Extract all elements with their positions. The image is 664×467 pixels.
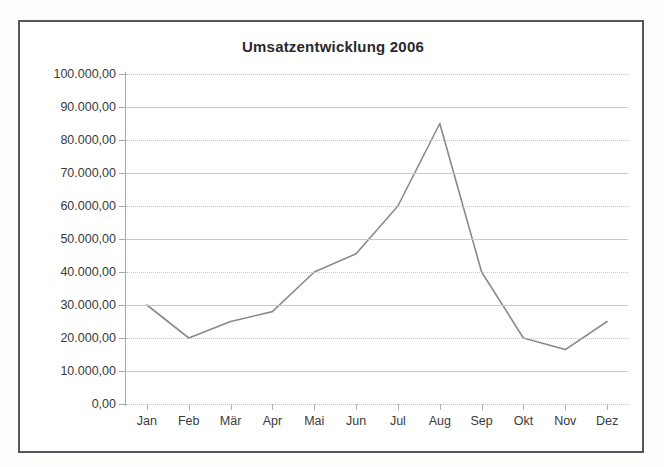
y-axis-label: 70.000,00 <box>24 166 116 180</box>
y-axis-tick <box>119 206 126 207</box>
plot-area <box>126 74 628 404</box>
y-axis-label: 10.000,00 <box>24 364 116 378</box>
page-caption <box>0 459 664 467</box>
x-axis-tick <box>482 404 483 410</box>
y-axis-label: 90.000,00 <box>24 100 116 114</box>
y-axis-labels: 0,0010.000,0020.000,0030.000,0040.000,00… <box>20 22 116 455</box>
x-axis-tick <box>272 404 273 410</box>
y-axis-tick <box>119 140 126 141</box>
y-axis-tick <box>119 272 126 273</box>
x-axis-tick <box>147 404 148 410</box>
y-axis-label: 40.000,00 <box>24 265 116 279</box>
x-axis-tick <box>607 404 608 410</box>
x-axis-tick <box>565 404 566 410</box>
chart-frame: Umsatzentwicklung 2006 0,0010.000,0020.0… <box>18 20 644 453</box>
x-axis-tick <box>231 404 232 410</box>
y-axis-label: 60.000,00 <box>24 199 116 213</box>
y-axis-label: 50.000,00 <box>24 232 116 246</box>
y-axis-label: 20.000,00 <box>24 331 116 345</box>
y-axis-tick <box>119 338 126 339</box>
y-axis-tick <box>119 107 126 108</box>
x-axis-tick <box>356 404 357 410</box>
scanned-page: Umsatzentwicklung 2006 0,0010.000,0020.0… <box>0 0 664 467</box>
y-axis-tick <box>119 74 126 75</box>
gridline <box>126 206 628 207</box>
y-axis-tick <box>119 404 126 405</box>
gridline <box>126 140 628 141</box>
gridline <box>126 272 628 273</box>
x-axis-tick <box>398 404 399 410</box>
x-axis-tick <box>440 404 441 410</box>
gridline <box>126 74 628 75</box>
gridline <box>126 173 628 174</box>
y-axis-tick <box>119 371 126 372</box>
gridline <box>126 338 628 339</box>
gridline <box>126 404 628 405</box>
y-axis-tick <box>119 239 126 240</box>
gridline <box>126 371 628 372</box>
gridline <box>126 107 628 108</box>
gridline <box>126 239 628 240</box>
x-axis-tick <box>189 404 190 410</box>
y-axis-label: 0,00 <box>24 397 116 411</box>
y-axis-label: 100.000,00 <box>24 67 116 81</box>
y-axis-label: 30.000,00 <box>24 298 116 312</box>
gridline <box>126 305 628 306</box>
y-axis-label: 80.000,00 <box>24 133 116 147</box>
x-axis-tick <box>523 404 524 410</box>
y-axis-tick <box>119 305 126 306</box>
x-axis-label-dez: Dez <box>582 414 632 428</box>
x-axis-tick <box>314 404 315 410</box>
y-axis-tick <box>119 173 126 174</box>
